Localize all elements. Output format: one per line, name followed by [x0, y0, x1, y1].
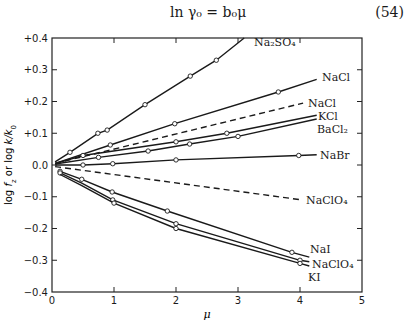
data-point-marker: [174, 226, 178, 230]
y-tick-label: +0.4: [24, 33, 48, 44]
x-tick-label: 4: [297, 295, 303, 306]
data-point-marker: [173, 122, 177, 126]
y-tick-label: +0.2: [24, 96, 48, 107]
series-label-nacl: NaCl: [322, 71, 351, 84]
data-point-marker: [290, 250, 294, 254]
data-point-marker: [112, 201, 116, 205]
series-line-na2so4: [55, 38, 244, 162]
y-tick-label: +0.3: [24, 64, 48, 75]
data-point-marker: [214, 58, 218, 62]
series-label-bacl2: BaCl₂: [317, 123, 348, 136]
data-point-marker: [96, 131, 100, 135]
data-point-marker: [146, 149, 150, 153]
y-tick-label: 0.0: [32, 160, 48, 171]
series-label-na2so4: Na₂SO₄: [254, 36, 296, 49]
y-tick-label: −0.2: [24, 223, 48, 234]
series-label-naclo4-dashed-: NaClO₄: [306, 194, 348, 207]
series-line-nabr: [55, 155, 317, 165]
data-point-marker: [143, 102, 147, 106]
data-point-marker: [110, 190, 114, 194]
series-label-nabr: NaBr: [320, 149, 350, 162]
data-point-marker: [174, 222, 178, 226]
data-point-marker: [165, 209, 169, 213]
data-point-marker: [108, 143, 112, 147]
series-line-bacl2: [55, 119, 317, 164]
data-point-marker: [111, 162, 115, 166]
data-point-marker: [297, 153, 301, 157]
series-label-naclo4: NaClO₄: [312, 258, 354, 271]
data-point-marker: [187, 142, 191, 146]
x-tick-label: 3: [235, 295, 241, 306]
data-point-marker: [276, 90, 280, 94]
x-tick-label: 1: [111, 295, 117, 306]
y-tick-label: −0.3: [24, 255, 48, 266]
data-point-marker: [298, 261, 302, 265]
y-tick-label: −0.1: [24, 191, 48, 202]
data-point-marker: [80, 177, 84, 181]
x-axis-label: μ: [203, 308, 210, 321]
data-point-marker: [236, 134, 240, 138]
data-point-marker: [96, 155, 100, 159]
data-point-marker: [174, 158, 178, 162]
chart-series: [55, 38, 317, 266]
series-label-nai: NaI: [310, 243, 331, 256]
chart-series-labels: Na₂SO₄NaClNaClKClBaCl₂NaBrNaClO₄NaINaClO…: [254, 36, 354, 284]
data-point-marker: [105, 128, 109, 132]
data-point-marker: [81, 163, 85, 167]
y-tick-label: +0.1: [24, 128, 48, 139]
data-point-marker: [81, 153, 85, 157]
x-tick-label: 5: [359, 295, 365, 306]
series-label-ki: KI: [308, 271, 321, 284]
data-point-marker: [225, 131, 229, 135]
data-point-marker: [58, 171, 62, 175]
series-label-nacl-dashed-: NaCl: [308, 97, 337, 110]
data-point-marker: [68, 150, 72, 154]
x-tick-label: 0: [49, 295, 55, 306]
data-point-marker: [174, 140, 178, 144]
x-tick-label: 2: [173, 295, 179, 306]
y-tick-label: −0.4: [24, 287, 48, 298]
line-chart: 012345+0.4+0.3+0.2+0.10.0−0.1−0.2−0.3−0.…: [0, 0, 408, 324]
data-point-marker: [188, 74, 192, 78]
series-label-kcl: KCl: [318, 110, 338, 123]
y-axis-label: log fz or log k/k0: [3, 125, 18, 205]
